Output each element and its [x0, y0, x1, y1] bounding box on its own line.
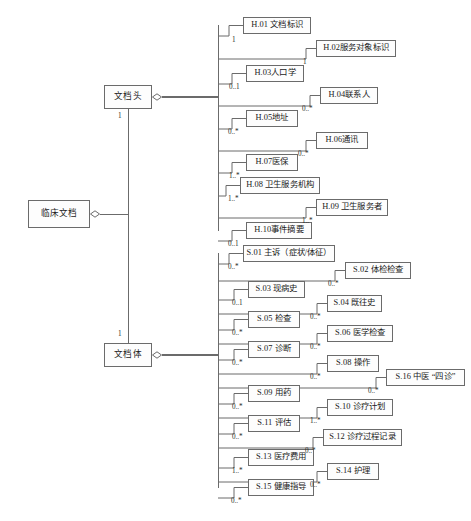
multiplicity-label: 0..* — [305, 447, 315, 455]
body-child-s-08: S.08 操作 — [327, 355, 379, 372]
multiplicity-label: 0..* — [232, 433, 242, 441]
multiplicity-label: 0..* — [368, 387, 378, 395]
multiplicity-label: 1..* — [228, 195, 238, 203]
multiplicity-label: 1..* — [310, 417, 320, 425]
body-child-s-07: S.07 诊断 — [248, 341, 300, 358]
multiplicity-label: 0..* — [310, 313, 320, 321]
multiplicity-label: 0..1 — [229, 83, 239, 91]
root-node-clinical-document: 临床文档 — [28, 200, 90, 228]
body-child-s-01: S.01 主诉（症状/体征） — [243, 245, 335, 262]
multiplicity-label: 0..* — [298, 150, 308, 158]
multiplicity-label: 0..* — [302, 105, 312, 113]
multiplicity-label: 0..* — [232, 329, 242, 337]
header-child-h-02: H.02服务对象标识 — [316, 40, 396, 57]
multiplicity-label: 1..* — [229, 172, 239, 180]
body-child-s-02: S.02 体检检查 — [345, 262, 411, 279]
body-child-s-09: S.09 用药 — [248, 385, 300, 402]
body-child-s-15: S.15 健康指导 — [248, 479, 314, 496]
multiplicity-label: 0..1 — [232, 299, 242, 307]
header-child-h-01: H.01 文档标识 — [243, 17, 311, 34]
multiplicity-label: 0..* — [231, 497, 241, 505]
multiplicity-label: 1 — [303, 58, 307, 66]
multiplicity-label: 0..* — [310, 373, 320, 381]
header-child-h-08: H.08 卫生服务机构 — [240, 177, 320, 194]
header-child-h-04: H.04联系人 — [320, 87, 378, 104]
body-child-s-06: S.06 医学检查 — [327, 325, 393, 342]
multiplicity-label: 0..* — [228, 128, 238, 136]
multiplicity-label: 1 — [118, 112, 122, 120]
body-child-s-03: S.03 现病史 — [248, 281, 305, 298]
header-child-h-06: H.06通讯 — [316, 132, 368, 149]
body-child-s-14: S.14 护理 — [327, 463, 379, 480]
branch-node-document-body: 文档体 — [104, 343, 152, 367]
leaf-connector-H.01 — [218, 26, 243, 37]
header-child-h-03: H.03人口学 — [246, 65, 304, 82]
multiplicity-label: 0..* — [232, 359, 242, 367]
body-child-s-12: S.12 诊疗过程记录 — [323, 429, 402, 446]
body-child-s-05: S.05 检查 — [248, 311, 300, 328]
multiplicity-label: 0..* — [328, 280, 338, 288]
body-child-s-11: S.11 评估 — [248, 415, 300, 432]
header-child-h-07: H.07医保 — [246, 154, 298, 171]
multiplicity-label: 0..* — [232, 403, 242, 411]
leaf-connector-S.16 — [218, 378, 386, 389]
leaf-connector-H.02 — [218, 49, 316, 60]
multiplicity-label: 1..* — [302, 217, 312, 225]
body-child-s-10: S.10 诊疗计划 — [327, 399, 393, 416]
multiplicity-label: 1 — [232, 36, 236, 44]
header-child-h-09: H.09 卫生服务者 — [316, 199, 388, 216]
multiplicity-label: 0..* — [310, 343, 320, 351]
header-child-h-05: H.05地址 — [246, 110, 298, 127]
uml-composition-diagram: 临床文档文档头文档体H.01 文档标识H.02服务对象标识H.03人口学H.04… — [0, 0, 471, 521]
multiplicity-label: 1..* — [232, 467, 242, 475]
aggregation-diamond-clinical-document — [91, 211, 100, 217]
body-child-s-04: S.04 既往史 — [327, 295, 382, 312]
branch-node-document-header: 文档头 — [104, 85, 152, 109]
multiplicity-label: 1 — [118, 330, 122, 338]
aggregation-diamond-document-body — [153, 352, 162, 358]
multiplicity-label: 0..1 — [228, 240, 238, 248]
leaf-connector-S.02 — [218, 271, 345, 282]
body-child-s-16: S.16 中医 “四诊” — [386, 369, 465, 386]
aggregation-diamond-document-header — [153, 94, 162, 100]
multiplicity-label: 0..* — [228, 263, 238, 271]
multiplicity-label: 0..* — [310, 481, 320, 489]
